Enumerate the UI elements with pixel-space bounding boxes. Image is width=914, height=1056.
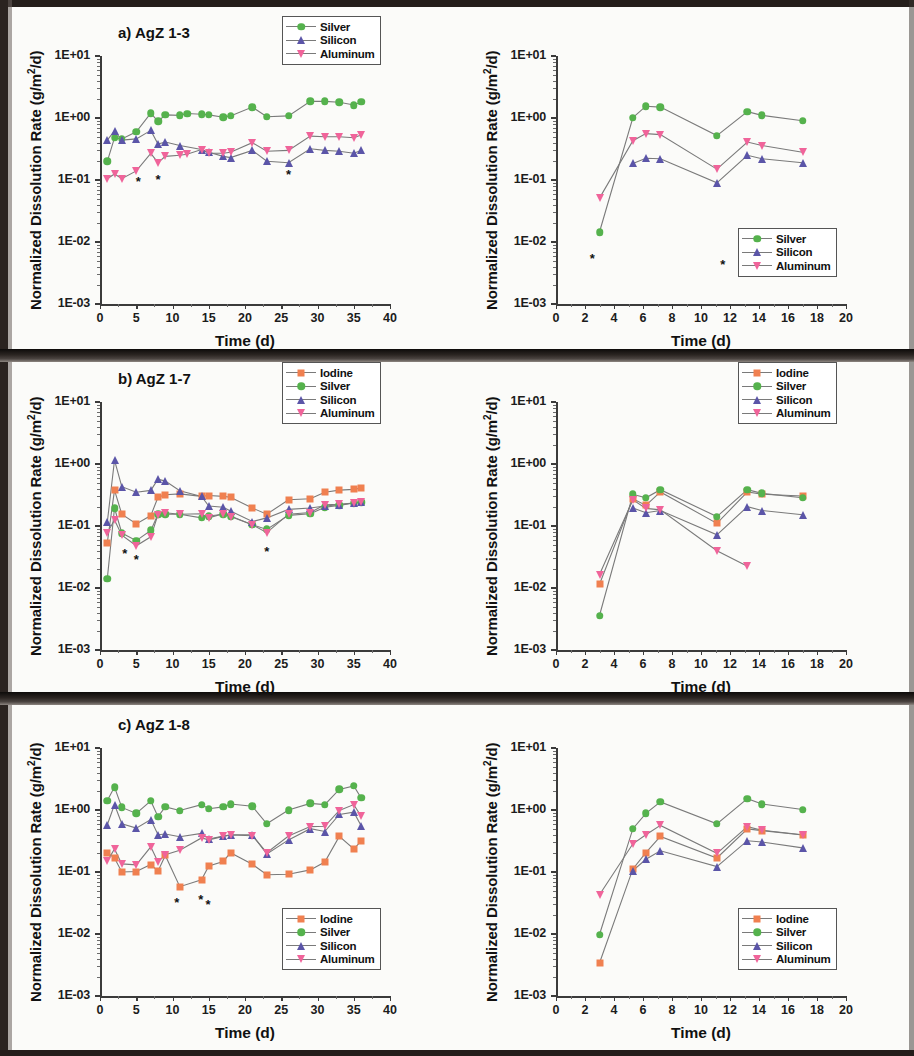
data-point-aluminum — [357, 498, 365, 506]
x-tick-minor — [658, 304, 659, 307]
data-point-silicon — [147, 486, 155, 494]
y-tick-minor — [553, 445, 556, 446]
legend-item-silver[interactable]: Silver — [742, 380, 831, 394]
y-tick-minor — [553, 205, 556, 206]
y-tick-major — [551, 933, 556, 934]
y-tick-minor — [97, 569, 100, 570]
legend-item-silver[interactable]: Silver — [286, 926, 375, 940]
y-tick-minor — [97, 602, 100, 603]
legend-item-aluminum[interactable]: Aluminum — [742, 953, 831, 967]
legend-item-aluminum[interactable]: Aluminum — [286, 47, 375, 61]
legend-item-aluminum[interactable]: Aluminum — [742, 407, 831, 421]
y-tick-minor — [553, 613, 556, 614]
y-tick-minor — [97, 212, 100, 213]
y-tick-minor — [553, 161, 556, 162]
legend-marker-icon — [742, 393, 772, 406]
y-tick-label: 1E-01 — [38, 518, 90, 532]
y-tick-label: 1E+01 — [494, 740, 546, 754]
data-point-silver — [307, 98, 315, 106]
x-tick-minor — [263, 304, 264, 307]
x-tick-minor — [299, 650, 300, 653]
data-point-aluminum — [596, 571, 604, 579]
y-tick-minor — [97, 478, 100, 479]
legend-item-silicon[interactable]: Silicon — [742, 939, 831, 953]
legend-item-iodine[interactable]: Iodine — [286, 912, 375, 926]
data-point-silicon — [713, 531, 721, 539]
data-point-aluminum — [183, 150, 191, 158]
legend-item-iodine[interactable]: Iodine — [742, 912, 831, 926]
data-point-aluminum — [147, 149, 155, 157]
data-point-aluminum — [263, 849, 271, 857]
data-point-silicon — [176, 833, 184, 841]
data-point-aluminum — [103, 857, 111, 865]
legend-marker-icon — [742, 926, 772, 939]
legend-item-aluminum[interactable]: Aluminum — [286, 407, 375, 421]
x-tick-minor — [600, 304, 601, 307]
y-tick-minor — [97, 205, 100, 206]
y-tick-major — [95, 747, 100, 748]
data-point-iodine — [249, 861, 256, 868]
legend-item-silicon[interactable]: Silicon — [286, 34, 375, 48]
legend-item-silver[interactable]: Silver — [742, 926, 831, 940]
chart-legend: IodineSilverSiliconAluminum — [738, 362, 837, 424]
y-tick-minor — [97, 816, 100, 817]
x-tick-major — [318, 304, 319, 309]
data-point-iodine — [220, 493, 227, 500]
legend-item-iodine[interactable]: Iodine — [742, 366, 831, 380]
data-point-silver — [799, 806, 807, 814]
y-tick-label: 1E-03 — [38, 642, 90, 656]
data-point-iodine — [596, 581, 603, 588]
legend-item-silicon[interactable]: Silicon — [286, 939, 375, 953]
data-point-silver — [657, 486, 665, 494]
y-tick-minor — [553, 953, 556, 954]
data-point-silicon — [743, 503, 751, 511]
y-tick-minor — [97, 532, 100, 533]
legend-item-silver[interactable]: Silver — [286, 380, 375, 394]
legend-item-iodine[interactable]: Iodine — [286, 366, 375, 380]
y-tick-minor — [553, 416, 556, 417]
x-tick-label: 5 — [116, 311, 156, 325]
y-tick-label: 1E-02 — [38, 580, 90, 594]
y-tick-label: 1E+00 — [494, 802, 546, 816]
y-tick-minor — [97, 445, 100, 446]
y-tick-minor — [553, 70, 556, 71]
legend-item-aluminum[interactable]: Aluminum — [286, 953, 375, 967]
data-point-aluminum — [132, 861, 140, 869]
legend-item-aluminum[interactable]: Aluminum — [742, 259, 831, 273]
y-tick-minor — [97, 886, 100, 887]
legend-item-silicon[interactable]: Silicon — [742, 246, 831, 260]
x-tick-label: 30 — [298, 1003, 338, 1017]
x-tick-minor — [832, 650, 833, 653]
legend-item-silver[interactable]: Silver — [742, 232, 831, 246]
data-point-iodine — [176, 883, 183, 890]
data-point-silicon — [248, 146, 256, 154]
x-tick-label: 35 — [334, 311, 374, 325]
legend-label: Aluminum — [316, 407, 375, 419]
x-tick-label: 25 — [261, 311, 301, 325]
legend-item-silicon[interactable]: Silicon — [742, 393, 831, 407]
y-tick-minor — [97, 252, 100, 253]
chart-panel-c-right: 1E+011E+001E-011E-021E-03024681012141618… — [470, 700, 906, 1056]
y-tick-label: 1E+01 — [38, 740, 90, 754]
data-point-aluminum — [132, 542, 140, 550]
legend-item-silver[interactable]: Silver — [286, 20, 375, 34]
data-point-silicon — [132, 824, 140, 832]
x-tick-major — [136, 996, 137, 1001]
data-point-silicon — [758, 155, 766, 163]
y-axis-title: Normalized Dissolution Rate (g/m2/d) — [482, 397, 500, 657]
y-tick-minor — [553, 594, 556, 595]
data-point-silver — [111, 783, 119, 791]
y-axis-title: Normalized Dissolution Rate (g/m2/d) — [482, 743, 500, 1003]
legend-label: Iodine — [772, 367, 809, 379]
data-point-silver — [162, 803, 170, 811]
data-point-aluminum — [248, 521, 256, 529]
legend-marker-icon — [742, 246, 772, 259]
legend-item-silicon[interactable]: Silicon — [286, 393, 375, 407]
data-point-iodine — [350, 846, 357, 853]
y-tick-minor — [97, 613, 100, 614]
data-point-iodine — [155, 494, 162, 501]
x-tick-major — [245, 304, 246, 309]
y-tick-minor — [97, 842, 100, 843]
x-tick-minor — [263, 650, 264, 653]
y-tick-minor — [553, 977, 556, 978]
